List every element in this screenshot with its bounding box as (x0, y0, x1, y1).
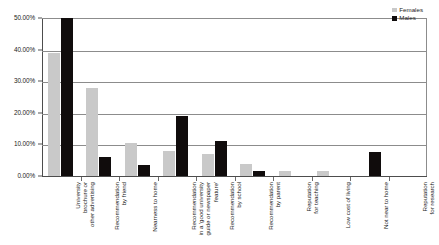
x-axis-label: Universitybrochure orother advertising (74, 182, 112, 245)
y-tick-label: 20.00% (14, 110, 35, 116)
bar-females (125, 143, 137, 176)
bar-group (119, 18, 158, 176)
bar-males (138, 165, 150, 176)
x-tick-mark (350, 177, 351, 181)
x-axis-label-line: other advertising (89, 182, 96, 245)
x-axis-label-line: by friend (120, 182, 127, 245)
x-axis-label: Recommendationby parent (267, 182, 305, 245)
bar-females (163, 151, 175, 176)
x-axis-label: Reputationfor teaching (305, 182, 343, 245)
x-tick-mark (81, 177, 82, 181)
x-axis-label-line: in a 'good university (197, 182, 204, 245)
x-tick-mark (389, 177, 390, 181)
y-tick-label: 40.00% (14, 46, 35, 52)
legend: FemalesMales (390, 6, 425, 22)
y-axis: 0.00%10.00%20.00%30.00%40.00%50.00% (0, 0, 42, 180)
x-axis-label: Recommendationby friend (113, 182, 151, 245)
x-tick-mark (158, 177, 159, 181)
x-axis-label-line: Low cost of living (344, 182, 351, 245)
x-axis-label-line: Recommendation (190, 182, 197, 245)
bar-females (86, 88, 98, 176)
x-tick-mark (273, 177, 274, 181)
legend-label: Females (399, 7, 423, 13)
y-tick-label: 30.00% (14, 78, 35, 84)
x-axis-label-line: Recommendation (267, 182, 274, 245)
bar-males (61, 18, 73, 176)
x-axis-label-line: for teaching (312, 182, 319, 245)
x-axis-label-line: for research (428, 182, 435, 245)
bar-females (202, 154, 214, 176)
legend-label: Males (399, 15, 416, 21)
legend-swatch-icon (392, 16, 397, 21)
legend-entry[interactable]: Males (392, 15, 423, 21)
x-axis-label-line: Recommendation (113, 182, 120, 245)
bar-group (235, 18, 274, 176)
bar-males (369, 152, 381, 176)
x-tick-mark (312, 177, 313, 181)
x-axis-label-line: Nearness to home (151, 182, 158, 245)
x-axis-labels: Universitybrochure orother advertisingRe… (42, 182, 427, 245)
bar-males (176, 116, 188, 176)
x-tick-mark (119, 177, 120, 181)
x-axis-label: Recommendationin a 'good universityguide… (190, 182, 228, 245)
x-axis-label: Recommendationby school (228, 182, 266, 245)
x-axis-label-line: guide or newspaper (204, 182, 211, 245)
x-axis-label-line: by school (235, 182, 242, 245)
x-axis-label: Nearness to home (151, 182, 189, 245)
y-tick-label: 10.00% (14, 141, 35, 147)
legend-entry[interactable]: Females (392, 7, 423, 13)
bar-group (42, 18, 81, 176)
x-axis-label-line: feature' (211, 182, 218, 245)
legend-swatch-icon (392, 8, 397, 13)
bar-group (81, 18, 120, 176)
bar-females (48, 53, 60, 176)
x-axis-label: Low cost of living (344, 182, 382, 245)
x-axis-label: Reputationfor research (421, 182, 439, 245)
bars-layer (42, 18, 427, 176)
bar-group (273, 18, 312, 176)
x-axis-ticks (42, 177, 427, 181)
bar-males (215, 141, 227, 176)
x-axis-label-line: Reputation (421, 182, 428, 245)
y-tick-label: 50.00% (14, 15, 35, 21)
bar-males (99, 157, 111, 176)
bar-group (389, 18, 428, 176)
x-axis-label: Not near to home (382, 182, 420, 245)
x-axis-label-line: Not near to home (382, 182, 389, 245)
x-axis-label-line: by parent (274, 182, 281, 245)
y-tick-label: 0.00% (17, 173, 35, 179)
bar-group (196, 18, 235, 176)
x-tick-mark (235, 177, 236, 181)
bar-group (158, 18, 197, 176)
bar-group (350, 18, 389, 176)
bar-group (312, 18, 351, 176)
bar-females (240, 164, 252, 176)
x-tick-mark (196, 177, 197, 181)
